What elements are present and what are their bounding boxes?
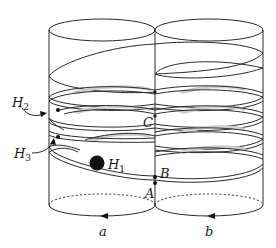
helix-bands: [49, 85, 263, 182]
cylinder-left: [49, 19, 155, 216]
handle-h1-disk: [90, 156, 105, 171]
label-h3: H3: [13, 146, 31, 163]
label-h2: H2: [11, 95, 29, 112]
label-b: B: [159, 166, 170, 181]
cylinder-right: [155, 19, 263, 216]
two-cylinder-helix-diagram: H2 H3 H1 C B A a b: [0, 0, 276, 248]
label-h1: H1: [107, 157, 125, 174]
arrow-b-icon: [207, 213, 215, 219]
label-b-cylinder: b: [205, 224, 213, 239]
label-c: C: [143, 115, 153, 130]
label-a-point: A: [144, 186, 154, 201]
upper-helix-lines: [49, 42, 263, 93]
label-a: a: [99, 224, 107, 239]
arrow-a-icon: [100, 213, 108, 219]
